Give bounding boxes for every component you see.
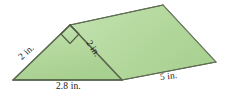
dimension-label-base: 2.8 in.	[56, 82, 81, 92]
prism-figure: 2 in. 2 in. 2.8 in. 5 in.	[0, 0, 228, 97]
dimension-label-depth: 5 in.	[160, 71, 178, 82]
